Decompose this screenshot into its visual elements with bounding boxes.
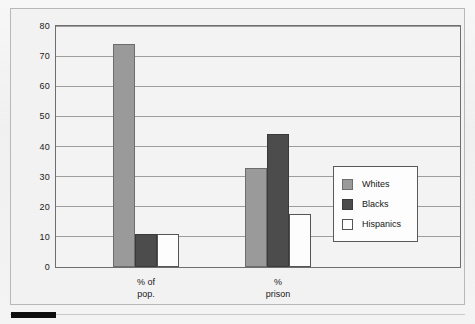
bar-whites-0 — [113, 44, 135, 267]
legend-item-hispanics: Hispanics — [342, 214, 410, 234]
y-axis-tick-label: 0 — [45, 262, 50, 272]
x-axis-category-label: % ofpop. — [137, 276, 155, 300]
legend-item-whites: Whites — [342, 174, 410, 194]
x-axis-category-label: %prison — [266, 276, 291, 300]
bar-blacks-1 — [267, 134, 289, 267]
scan-rule-line — [10, 314, 465, 315]
y-axis-tick-label: 40 — [40, 142, 50, 152]
y-axis-tick-label: 60 — [40, 81, 50, 91]
x-axis-label-line: prison — [266, 288, 291, 300]
y-axis-tick-label: 50 — [40, 111, 50, 121]
bar-blacks-0 — [135, 234, 157, 267]
legend-label: Hispanics — [362, 219, 401, 229]
bar-hispanics-0 — [157, 234, 179, 267]
x-axis-label-line: pop. — [137, 288, 155, 300]
scan-edge-artifact — [11, 312, 56, 318]
chart-frame: 01020304050607080% ofpop.%prison WhitesB… — [10, 8, 465, 305]
bar-hispanics-1 — [289, 214, 311, 267]
x-axis-label-line: % of — [137, 276, 155, 288]
legend-label: Blacks — [362, 199, 389, 209]
legend-label: Whites — [362, 179, 390, 189]
y-axis-tick-label: 30 — [40, 172, 50, 182]
legend-swatch-hispanics — [342, 219, 353, 230]
bar-whites-1 — [245, 168, 267, 267]
legend-swatch-blacks — [342, 199, 353, 210]
chart-legend: WhitesBlacksHispanics — [333, 166, 418, 242]
legend-swatch-whites — [342, 179, 353, 190]
y-axis-tick-label: 80 — [40, 21, 50, 31]
legend-item-blacks: Blacks — [342, 194, 410, 214]
y-axis-tick-label: 10 — [40, 232, 50, 242]
y-axis-tick-label: 70 — [40, 51, 50, 61]
y-axis-tick-label: 20 — [40, 202, 50, 212]
gridline — [56, 26, 460, 27]
x-axis-label-line: % — [266, 276, 291, 288]
